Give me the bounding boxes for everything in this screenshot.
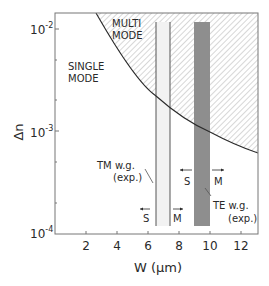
te-s-label: S: [184, 176, 190, 187]
xtick-label-10: 10: [202, 239, 217, 253]
tm-waveguide-label-line2: (exp.): [113, 172, 142, 183]
x-axis-title: W (μm): [134, 260, 182, 275]
tm-s-label: S: [143, 213, 149, 224]
y-axis-ticks: [55, 29, 59, 203]
single-mode-label-line1: SINGLE: [68, 61, 104, 72]
xtick-label-2: 2: [82, 239, 90, 253]
tm-single-mode-arrow: [140, 208, 150, 211]
te-waveguide-label-line1: TE w.g.: [212, 200, 249, 211]
te-multi-mode-arrow: [212, 169, 224, 172]
mode-chart: 10-2 10-3 10-4 2 4 6 8 10 12 W (μm) Δn M…: [0, 0, 269, 286]
y-axis-title: Δn: [11, 123, 26, 140]
ytick-label-1e-2: 10-2: [30, 21, 53, 37]
multi-mode-label-line1: MULTI: [112, 18, 141, 29]
te-single-mode-arrow: [180, 169, 192, 172]
tm-m-label: M: [173, 213, 182, 224]
xtick-label-4: 4: [113, 239, 121, 253]
tm-waveguide-band: [156, 22, 170, 226]
xtick-label-12: 12: [233, 239, 248, 253]
ytick-label-1e-3: 10-3: [30, 124, 53, 140]
xtick-label-8: 8: [175, 239, 183, 253]
multi-mode-label-line2: MODE: [112, 30, 143, 41]
tm-pointer-line: [145, 169, 153, 183]
te-waveguide-band: [194, 22, 210, 226]
single-mode-label-line2: MODE: [68, 73, 99, 84]
tm-multi-mode-arrow: [173, 208, 183, 211]
te-waveguide-label-line2: (exp.): [228, 213, 257, 224]
xtick-label-6: 6: [144, 239, 152, 253]
tm-waveguide-label-line1: TM w.g.: [96, 160, 135, 171]
te-m-label: M: [214, 176, 223, 187]
ytick-label-1e-4: 10-4: [30, 225, 53, 241]
